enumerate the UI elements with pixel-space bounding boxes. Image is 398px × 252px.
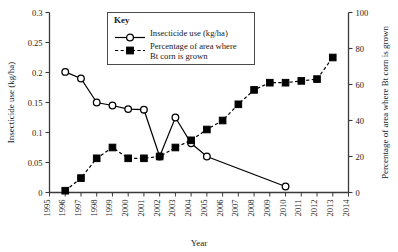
x-tick-label: 2008 [246,200,256,217]
data-point-marker [329,54,336,61]
y2-tick-label: 100 [356,8,369,18]
data-point-marker [314,76,321,83]
x-tick-label: 2010 [278,200,288,217]
data-point-marker [298,78,305,85]
data-point-marker [267,79,274,86]
data-point-marker [125,106,132,113]
data-point-marker [109,102,116,109]
data-point-marker [282,183,289,190]
data-point-marker [219,117,226,124]
data-point-marker [78,75,85,82]
x-axis-title: Year [191,238,208,248]
chart-legend: Key Insecticide use (kg/ha) Percentage o… [107,12,255,65]
y-tick-label: 0.25 [28,38,43,48]
legend-label-btcorn-line2: Bt corn is grown [146,51,237,62]
legend-title: Key [114,16,254,26]
x-tick-label: 2001 [136,200,146,217]
y2-tick-label: 80 [356,44,365,54]
legend-swatch-filled-square [114,42,146,53]
data-point-marker [78,175,85,182]
y-tick-label: 0.3 [32,8,43,18]
data-point-marker [141,106,148,113]
chart-figure: 00.050.10.150.20.250.3020406080100199519… [0,0,398,252]
y2-axis-title: Percentage of area where Bt corn is grow… [380,25,390,179]
x-tick-label: 1999 [104,200,114,217]
data-point-marker [235,101,242,108]
legend-label-insecticide: Insecticide use (kg/ha) [146,28,228,39]
y2-tick-label: 0 [356,188,360,198]
x-tick-label: 2007 [230,200,240,217]
y-axis-title: Insecticide use (kg/ha) [6,62,16,143]
data-point-marker [93,155,100,162]
x-tick-label: 1997 [73,200,83,217]
data-point-marker [62,69,69,76]
data-point-marker [141,155,148,162]
x-tick-label: 2003 [167,200,177,217]
x-tick-label: 1998 [89,200,99,217]
x-tick-label: 2002 [152,200,162,217]
x-tick-label: 2011 [293,200,303,217]
x-tick-label: 2014 [341,199,351,217]
data-point-marker [62,187,69,194]
data-point-marker [204,153,211,160]
x-tick-label: 2012 [309,200,319,217]
y-tick-label: 0.2 [32,68,43,78]
x-tick-label: 2006 [215,200,225,217]
data-point-marker [251,87,258,94]
y-tick-label: 0 [38,188,42,198]
y-tick-label: 0.05 [28,158,43,168]
data-point-marker [188,137,195,144]
data-point-marker [109,144,116,151]
legend-label-btcorn-line1: Percentage of area where [146,41,237,52]
y2-tick-label: 60 [356,80,365,90]
data-point-marker [204,126,211,133]
x-tick-label: 1996 [57,200,67,217]
x-tick-label: 2005 [199,200,209,217]
data-point-marker [172,114,179,121]
x-tick-label: 2004 [183,199,193,217]
legend-swatch-open-circle [114,29,146,40]
x-tick-label: 2009 [262,200,272,217]
data-point-marker [282,79,289,86]
legend-entry-btcorn: Percentage of area where Bt corn is grow… [114,41,254,62]
x-tick-label: 2013 [325,200,335,217]
data-point-marker [125,155,132,162]
y-tick-label: 0.1 [32,128,43,138]
y2-tick-label: 40 [356,116,365,126]
data-point-marker [93,99,100,106]
y2-tick-label: 20 [356,152,365,162]
x-tick-label: 1995 [42,200,52,217]
series-line-1 [65,58,333,191]
legend-entry-insecticide: Insecticide use (kg/ha) [114,28,254,40]
y-tick-label: 0.15 [28,98,43,108]
data-point-marker [156,153,163,160]
data-point-marker [172,144,179,151]
legend-label-btcorn-wrap: Percentage of area where Bt corn is grow… [146,41,237,62]
x-tick-label: 2000 [120,200,130,217]
